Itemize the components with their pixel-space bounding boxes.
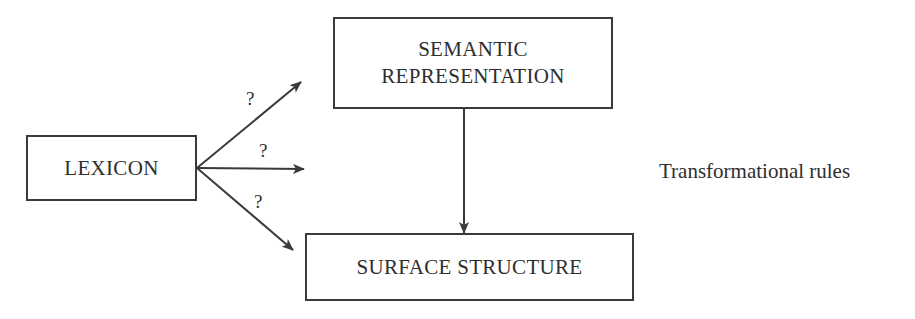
surface-structure-box: SURFACE STRUCTURE (305, 233, 634, 301)
arrow-lexicon-down (197, 168, 293, 250)
lexicon-label: LEXICON (64, 155, 158, 182)
transformational-rules-annotation: Transformational rules (659, 159, 850, 184)
semantic-label-line2: REPRESENTATION (381, 63, 564, 90)
arrow-lexicon-right (197, 168, 304, 169)
semantic-representation-box: SEMANTIC REPRESENTATION (333, 17, 613, 109)
surface-label: SURFACE STRUCTURE (357, 254, 583, 281)
semantic-label-line1: SEMANTIC (418, 36, 528, 63)
lexicon-box: LEXICON (26, 135, 197, 201)
edge-label-down: ? (254, 191, 262, 213)
edge-label-right: ? (259, 140, 267, 162)
edge-label-up: ? (246, 88, 254, 110)
